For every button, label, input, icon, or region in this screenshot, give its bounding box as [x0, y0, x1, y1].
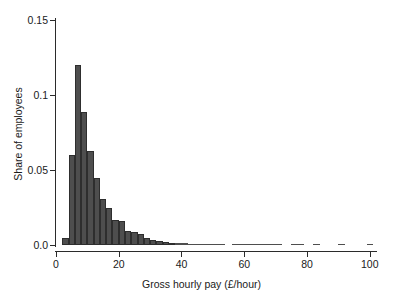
- histogram-bar: [338, 244, 344, 245]
- y-tick: [50, 245, 55, 246]
- histogram-chart: 0.00.050.10.15 020406080100 Gross hourly…: [0, 0, 403, 305]
- x-tick-label: 0: [53, 258, 59, 270]
- histogram-bar: [298, 244, 304, 245]
- y-axis-title: Share of employees: [12, 24, 24, 244]
- x-tick: [244, 252, 245, 257]
- y-tick: [50, 95, 55, 96]
- y-axis-tick-labels: 0.00.050.10.15: [0, 0, 48, 305]
- x-tick-label: 20: [113, 258, 125, 270]
- histogram-bar: [313, 244, 319, 245]
- x-axis-line: [55, 251, 377, 252]
- y-tick-label: 0.15: [28, 14, 48, 26]
- x-tick: [370, 252, 371, 257]
- x-tick-label: 40: [176, 258, 188, 270]
- x-tick: [56, 252, 57, 257]
- histogram-bar: [367, 244, 373, 245]
- x-tick-label: 100: [361, 258, 379, 270]
- histogram-bar: [276, 244, 282, 245]
- histogram-bar: [219, 244, 225, 245]
- x-tick-label: 80: [301, 258, 313, 270]
- x-tick: [181, 252, 182, 257]
- y-tick-label: 0.0: [33, 239, 48, 251]
- y-tick: [50, 20, 55, 21]
- y-tick: [50, 170, 55, 171]
- y-tick-label: 0.1: [33, 89, 48, 101]
- x-tick: [119, 252, 120, 257]
- x-tick-label: 60: [238, 258, 250, 270]
- plot-area: [56, 20, 376, 245]
- x-axis-title: Gross hourly pay (£/hour): [0, 278, 403, 290]
- x-tick: [307, 252, 308, 257]
- y-tick-label: 0.05: [28, 164, 48, 176]
